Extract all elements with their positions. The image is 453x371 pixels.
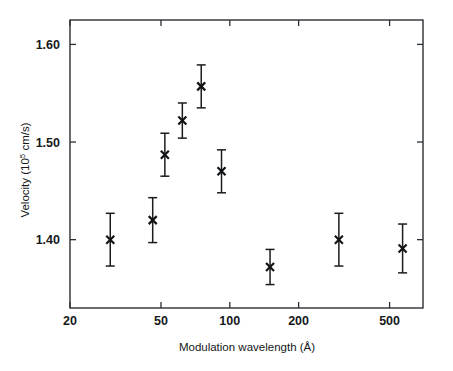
x-tick-label: 20	[63, 314, 77, 328]
data-point	[148, 198, 157, 243]
y-axis-title: Velocity (105 cm/s)	[18, 122, 31, 217]
data-point	[178, 103, 187, 138]
axis-ticks	[70, 20, 423, 308]
y-tick-label: 1.40	[36, 233, 60, 247]
scatter-plot: 2050100200500 1.401.501.60 Modulation wa…	[0, 0, 453, 371]
y-axis-tick-labels: 1.401.501.60	[36, 38, 60, 247]
x-tick-label: 500	[379, 314, 400, 328]
x-tick-label: 100	[219, 314, 240, 328]
figure-container: 2050100200500 1.401.501.60 Modulation wa…	[0, 0, 453, 371]
data-point	[106, 213, 115, 266]
x-tick-label: 50	[154, 314, 168, 328]
data-point	[160, 133, 169, 176]
data-point	[197, 65, 206, 108]
data-point	[334, 213, 343, 266]
y-tick-label: 1.50	[36, 136, 60, 150]
y-tick-label: 1.60	[36, 38, 60, 52]
x-tick-label: 200	[288, 314, 309, 328]
data-series	[106, 65, 407, 285]
x-axis-title: Modulation wavelength (Å)	[179, 341, 315, 353]
plot-frame	[70, 20, 423, 308]
data-point	[266, 249, 275, 284]
data-point	[217, 150, 226, 193]
x-axis-tick-labels: 2050100200500	[63, 314, 400, 328]
data-point	[398, 224, 407, 273]
